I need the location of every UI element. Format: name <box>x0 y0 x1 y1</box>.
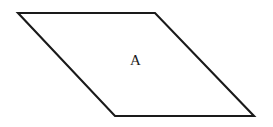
figure-canvas: A <box>0 0 273 127</box>
region-label-a: A <box>130 53 141 68</box>
